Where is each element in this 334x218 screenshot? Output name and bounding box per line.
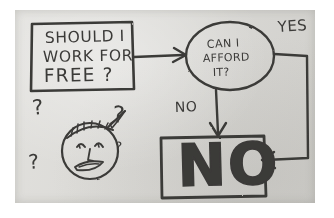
question-mark-top-left: ? bbox=[31, 95, 45, 120]
edge-label-yes: YES bbox=[276, 16, 308, 36]
decision-line-1: CAN I bbox=[206, 36, 239, 51]
edge-start-to-decision bbox=[134, 48, 186, 62]
start-box-line-1: SHOULD I bbox=[45, 27, 125, 47]
question-mark-bottom-left: ? bbox=[27, 149, 40, 174]
flowchart-drawing: SHOULD I WORK FOR FREE ? CAN I AFFORD IT… bbox=[15, 10, 315, 203]
start-box-line-2: WORK FOR bbox=[43, 46, 133, 66]
start-box-text: SHOULD I WORK FOR FREE ? bbox=[43, 27, 133, 86]
decision-line-2: AFFORD bbox=[203, 50, 250, 65]
edge-label-no: NO bbox=[175, 98, 198, 115]
edge-no-path bbox=[210, 90, 226, 136]
decision-line-3: IT? bbox=[213, 65, 230, 79]
decision-oval-text: CAN I AFFORD IT? bbox=[203, 36, 250, 79]
question-mark-mid-right: ? bbox=[115, 139, 123, 154]
paper-sheet: SHOULD I WORK FOR FREE ? CAN I AFFORD IT… bbox=[15, 10, 315, 203]
start-box-line-3: FREE ? bbox=[44, 64, 114, 86]
answer-box-text: NO bbox=[177, 129, 281, 200]
screenshot-canvas: SHOULD I WORK FOR FREE ? CAN I AFFORD IT… bbox=[0, 0, 334, 218]
question-mark-top-right: ? bbox=[112, 101, 126, 128]
